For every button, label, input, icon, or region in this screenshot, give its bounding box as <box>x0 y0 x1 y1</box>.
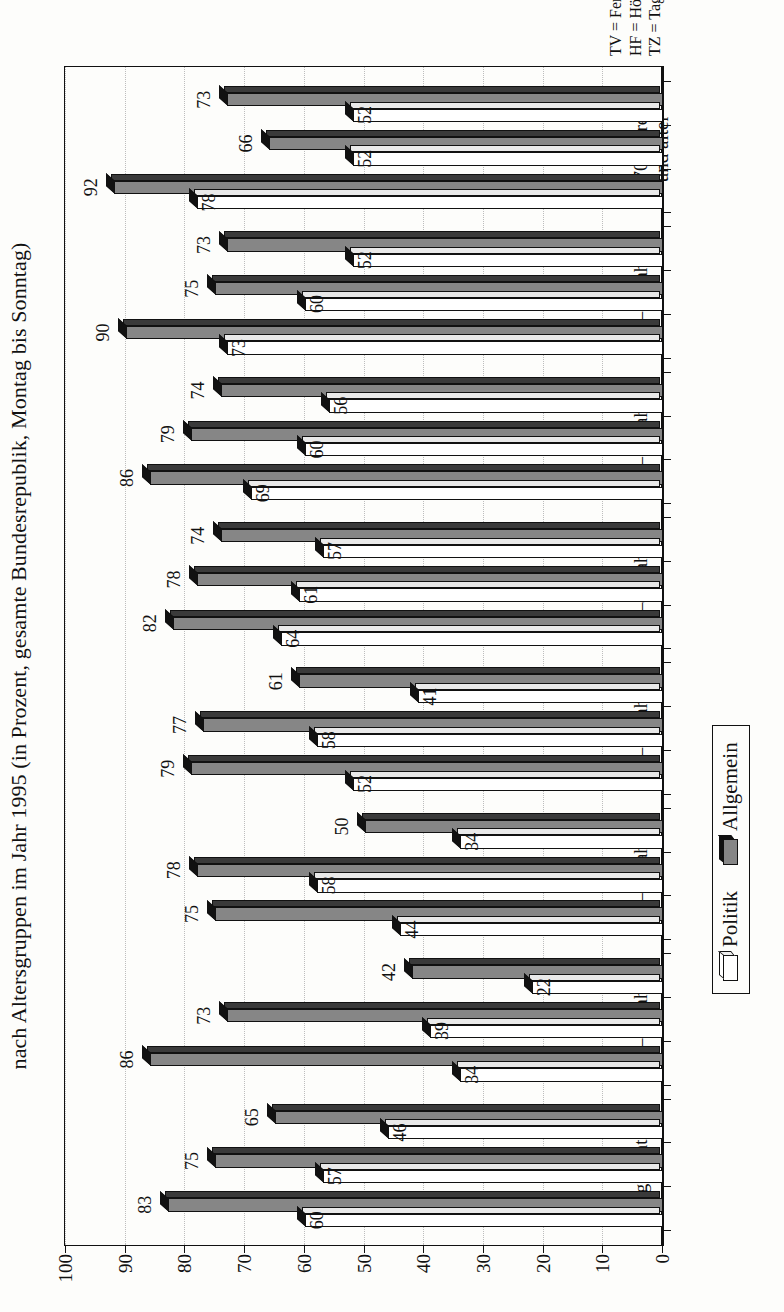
x-axis-tick <box>663 1041 671 1042</box>
bar-politik-TZ: 56 <box>329 399 663 412</box>
bar-side <box>212 1147 660 1154</box>
legend: Politik Allgemein <box>712 725 750 994</box>
bar-face <box>197 196 663 209</box>
bar-side <box>278 625 660 632</box>
bar-value-label: 58 <box>320 877 338 895</box>
bar-side <box>272 1104 660 1111</box>
bar-value-label: 61 <box>302 586 320 604</box>
bar-value-label: 52 <box>356 150 374 168</box>
y-axis-tick <box>602 1245 603 1253</box>
bar-value-label: 50 <box>333 818 351 836</box>
bar-face <box>418 690 663 703</box>
legend-item-politik: Politik <box>718 891 743 981</box>
bar-side <box>224 231 660 238</box>
bar-face <box>400 923 663 936</box>
bar-side <box>320 1163 660 1170</box>
y-axis-label: 100 <box>56 1254 75 1283</box>
bar-value-label: 75 <box>183 1152 201 1170</box>
bar-face <box>353 152 663 165</box>
bar-value-label: 79 <box>159 425 177 443</box>
bar-face <box>329 399 663 412</box>
bar-face <box>305 298 663 311</box>
y-axis-label: 10 <box>593 1254 612 1273</box>
y-axis-label: 0 <box>653 1254 672 1264</box>
bar-side <box>170 610 660 617</box>
bar-value-label: 52 <box>356 251 374 269</box>
y-axis-label: 50 <box>354 1254 373 1273</box>
bar-side <box>350 247 660 254</box>
y-axis-tick <box>65 1245 66 1253</box>
bar-side <box>314 872 660 879</box>
bar-value-label: 77 <box>171 716 189 734</box>
bar-side <box>296 581 660 588</box>
bar-value-label: 22 <box>535 978 553 996</box>
bar-value-label: 69 <box>254 484 272 502</box>
x-axis-tick <box>663 1099 671 1100</box>
bar-side <box>350 771 660 778</box>
bar-side <box>212 900 660 907</box>
bar-side <box>200 711 660 718</box>
bar-value-label: 78 <box>165 861 183 879</box>
y-axis-tick <box>662 1245 663 1253</box>
y-axis-tick <box>184 1245 185 1253</box>
x-axis-tick <box>663 517 671 518</box>
x-axis-tick <box>663 706 671 707</box>
bar-politik-HF: 58 <box>317 734 663 747</box>
gridline <box>184 67 185 1245</box>
bar-side <box>302 436 660 443</box>
y-axis-tick <box>244 1245 245 1253</box>
y-axis-tick <box>125 1245 126 1253</box>
bar-value-label: 52 <box>356 106 374 124</box>
bar-politik-TZ: 22 <box>532 981 663 994</box>
x-axis-tick <box>663 605 671 606</box>
bar-face <box>388 1126 663 1139</box>
x-axis-tick <box>663 226 671 227</box>
bar-side <box>302 1207 660 1214</box>
bar-face <box>281 632 663 645</box>
bar-side <box>457 828 660 835</box>
x-axis-tick <box>663 1142 671 1143</box>
bar-side <box>188 421 660 428</box>
y-axis-tick <box>483 1245 484 1253</box>
chart-title: nach Altersgruppen im Jahr 1995 (in Proz… <box>6 0 33 1312</box>
bar-side <box>427 1018 660 1025</box>
y-axis-tick <box>304 1245 305 1253</box>
bar-value-label: 56 <box>332 397 350 415</box>
y-axis-label: 60 <box>294 1254 313 1273</box>
chart-title-line-1: nach Altersgruppen im Jahr 1995 (in Proz… <box>6 0 33 1312</box>
legend-swatch-allgemein <box>723 839 738 865</box>
y-axis-label: 70 <box>235 1254 254 1273</box>
footnote-hf: HF = Hörfunk <box>626 0 646 56</box>
bar-value-label: 78 <box>200 194 218 212</box>
bar-side <box>147 464 660 471</box>
bar-side <box>111 174 660 181</box>
footnote-block: TV = Fernsehen HF = Hörfunk TZ = Tagesze… <box>606 0 665 56</box>
bar-value-label: 78 <box>165 571 183 589</box>
footnote-tv: TV = Fernsehen <box>606 0 626 56</box>
bar-politik-TV: 52 <box>353 778 663 791</box>
bar-side <box>296 667 660 674</box>
bar-politik-HF: 60 <box>305 443 663 456</box>
legend-label-allgemein: Allgemein <box>718 742 743 831</box>
bar-side <box>194 857 660 864</box>
bar-value-label: 34 <box>463 833 481 851</box>
x-axis-tick <box>663 663 671 664</box>
y-axis-tick <box>423 1245 424 1253</box>
legend-item-allgemein: Allgemein <box>718 742 743 865</box>
x-axis-tick <box>663 212 671 213</box>
bar-side <box>314 727 660 734</box>
bar-politik-TV: 78 <box>197 196 663 209</box>
bar-face <box>323 1170 663 1183</box>
bar-side <box>266 130 660 137</box>
bar-politik-HF: 57 <box>323 1170 663 1183</box>
bar-side <box>212 275 660 282</box>
chart-canvas: nach Altersgruppen im Jahr 1995 (in Proz… <box>0 0 784 1312</box>
bar-side <box>194 566 660 573</box>
bar-face <box>305 443 663 456</box>
x-axis-tick <box>663 649 671 650</box>
bar-politik-TV: 64 <box>281 632 663 645</box>
bar-politik-TV: 44 <box>400 923 663 936</box>
x-axis-tick <box>663 1230 671 1231</box>
bar-face <box>430 1025 663 1038</box>
bar-politik-TV: 60 <box>305 1214 663 1227</box>
